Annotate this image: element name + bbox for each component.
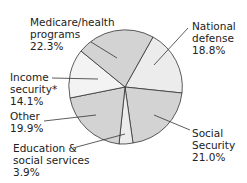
- pie-chart: Medicare/health programs 22.3% National …: [0, 0, 247, 183]
- label-national-defense: National defense 18.8%: [192, 20, 236, 56]
- label-medicare: Medicare/health programs 22.3%: [30, 16, 115, 52]
- label-education: Education & social services 3.9%: [13, 142, 89, 178]
- slice-social-security: [125, 87, 182, 143]
- label-social-security: Social Security 21.0%: [192, 127, 235, 163]
- label-other: Other 19.9%: [10, 110, 43, 134]
- label-income-security: Income security* 14.1%: [10, 71, 57, 107]
